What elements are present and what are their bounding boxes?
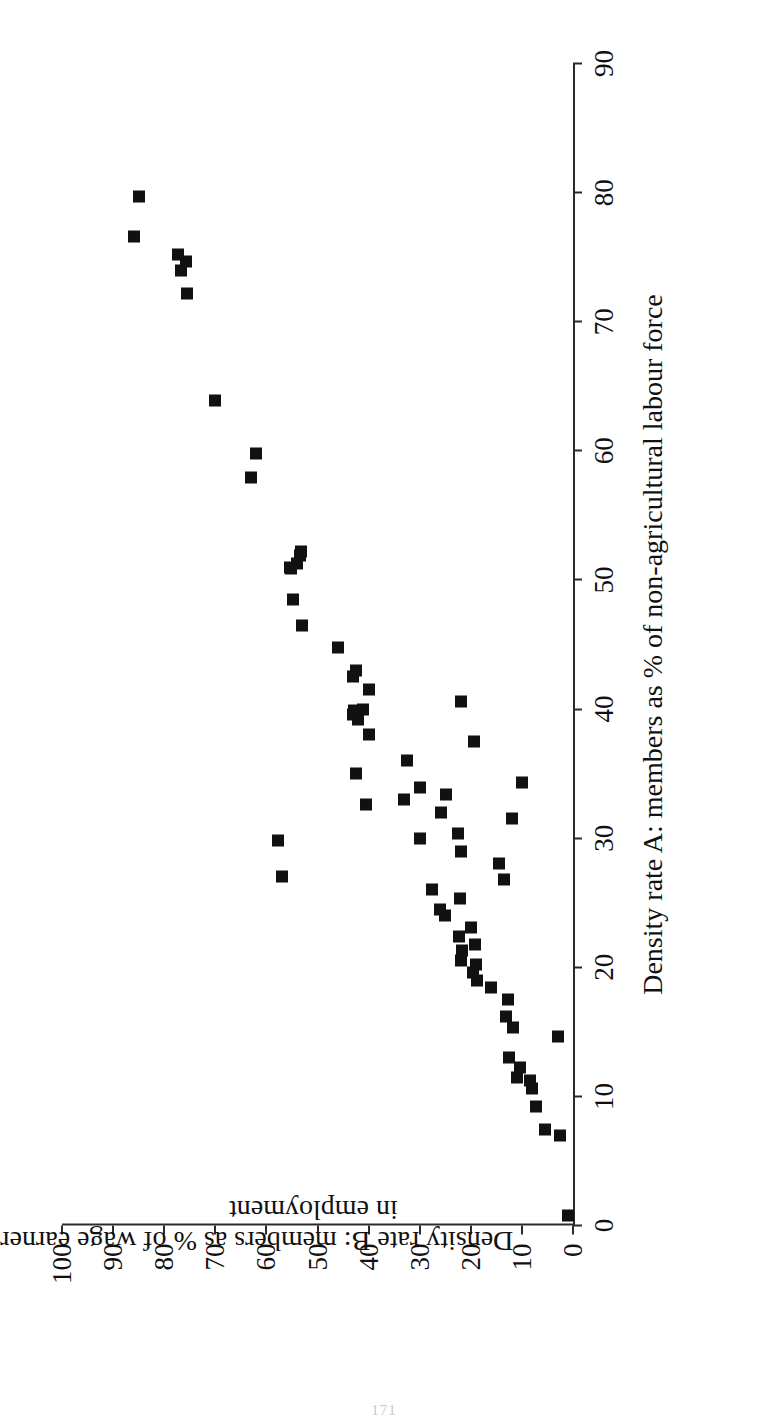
data-point [465, 921, 477, 933]
x-axis-title: Density rate A: members as % of non-agri… [637, 294, 668, 995]
data-point [357, 703, 369, 715]
data-point [296, 619, 308, 631]
data-point [530, 1100, 542, 1112]
y-axis-title-line-2: in employment [113, 1194, 513, 1225]
data-point [524, 1074, 536, 1086]
data-point [295, 545, 307, 557]
x-tick-90 [573, 62, 582, 64]
data-point [435, 806, 447, 818]
data-point [426, 883, 438, 895]
data-point [272, 834, 284, 846]
data-point [516, 776, 528, 788]
data-point [452, 827, 464, 839]
data-point [276, 870, 288, 882]
data-point [440, 788, 452, 800]
data-point [493, 858, 505, 870]
data-point [456, 944, 468, 956]
x-tick-label-60: 60 [591, 437, 618, 464]
y-tick-label-0: 0 [560, 1243, 587, 1257]
x-tick-label-80: 80 [591, 179, 618, 206]
x-tick-label-50: 50 [591, 566, 618, 593]
data-point [454, 892, 466, 904]
data-point [172, 248, 184, 260]
data-point [539, 1123, 551, 1135]
x-tick-40 [573, 708, 582, 710]
x-tick-label-30: 30 [591, 824, 618, 851]
data-point [363, 728, 375, 740]
page-folio: 171 [371, 1402, 397, 1419]
x-tick-50 [573, 578, 582, 580]
data-point [350, 664, 362, 676]
x-tick-label-20: 20 [591, 953, 618, 980]
data-point [485, 981, 497, 993]
x-tick-label-0: 0 [591, 1218, 618, 1232]
x-tick-10 [573, 1095, 582, 1097]
x-tick-0 [573, 1224, 582, 1226]
y-axis-title-line-1: Density rate B: members as % of wage ear… [113, 1225, 513, 1256]
data-point [455, 845, 467, 857]
data-point [500, 1010, 512, 1022]
scatter-figure: 0102030405060708090 01020304050607080901… [0, 0, 768, 1425]
y-axis-title: Density rate B: members as % of wage ear… [113, 1194, 513, 1257]
data-point [128, 230, 140, 242]
plot-area: 0102030405060708090 01020304050607080901… [0, 0, 768, 1425]
data-point [506, 812, 518, 824]
x-axis-line [573, 63, 575, 1225]
x-tick-60 [573, 449, 582, 451]
data-point [250, 447, 262, 459]
y-tick-10 [521, 1225, 523, 1234]
data-point [514, 1062, 526, 1074]
data-point [209, 394, 221, 406]
x-tick-30 [573, 837, 582, 839]
data-point [401, 754, 413, 766]
data-point [562, 1209, 574, 1221]
data-point [414, 832, 426, 844]
data-point [350, 767, 362, 779]
data-point [363, 683, 375, 695]
data-point [133, 190, 145, 202]
data-point [498, 873, 510, 885]
data-point [360, 798, 372, 810]
data-point [287, 593, 299, 605]
x-tick-70 [573, 320, 582, 322]
data-point [398, 793, 410, 805]
x-tick-80 [573, 191, 582, 193]
x-tick-label-10: 10 [591, 1082, 618, 1109]
data-point [554, 1129, 566, 1141]
y-tick-0 [572, 1225, 574, 1234]
data-point [507, 1021, 519, 1033]
data-point [455, 695, 467, 707]
x-tick-20 [573, 966, 582, 968]
data-point [502, 993, 514, 1005]
data-point [453, 930, 465, 942]
data-point [552, 1031, 564, 1043]
data-point [245, 471, 257, 483]
data-point [434, 903, 446, 915]
data-point [503, 1051, 515, 1063]
data-point [332, 641, 344, 653]
data-point [414, 781, 426, 793]
x-tick-label-90: 90 [591, 50, 618, 77]
data-point [181, 287, 193, 299]
data-point [469, 938, 481, 950]
x-tick-label-40: 40 [591, 695, 618, 722]
data-point [468, 735, 480, 747]
data-point [470, 958, 482, 970]
x-tick-label-70: 70 [591, 308, 618, 335]
